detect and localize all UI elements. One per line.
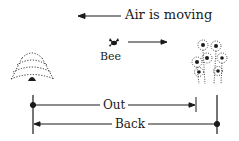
bee-label: Bee: [100, 51, 121, 63]
bee-icon: [109, 38, 119, 47]
out-label: Out: [100, 99, 128, 111]
hive-entrance: [28, 77, 36, 81]
flower-centers: [195, 43, 224, 74]
beehive-icon: [11, 53, 54, 80]
back-label: Back: [112, 118, 148, 130]
bee-arrow: [128, 40, 167, 44]
air-moving-label: Air is moving: [124, 9, 213, 21]
air-arrow: [78, 14, 121, 19]
